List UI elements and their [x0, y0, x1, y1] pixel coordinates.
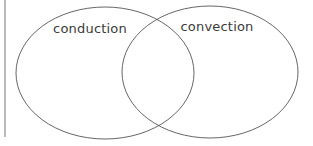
convection-label: convection: [180, 19, 253, 34]
venn-diagram: conduction convection: [0, 0, 313, 146]
conduction-label: conduction: [53, 21, 127, 36]
